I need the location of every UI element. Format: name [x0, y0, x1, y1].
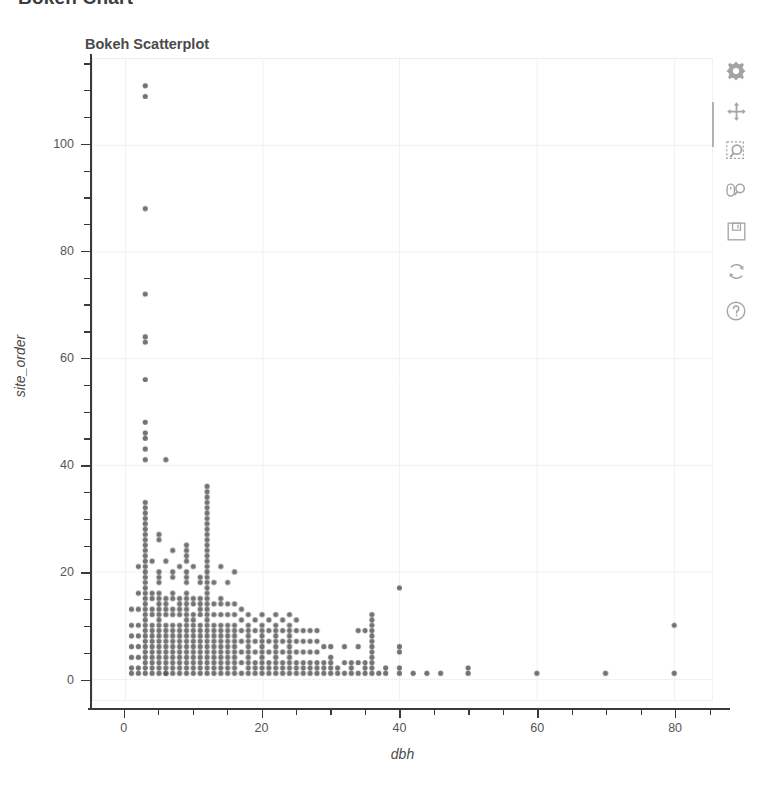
- x-tick: [399, 709, 400, 718]
- y-tick: [84, 492, 90, 493]
- save-icon[interactable]: [721, 216, 751, 246]
- y-tick: [84, 197, 90, 198]
- y-tick: [81, 572, 90, 573]
- y-tick: [81, 251, 90, 252]
- bokeh-logo-icon[interactable]: [721, 56, 751, 86]
- x-tick-label: 20: [255, 721, 269, 735]
- x-tick: [537, 709, 538, 718]
- box-zoom-icon[interactable]: [721, 136, 751, 166]
- x-tick-label: 80: [668, 721, 682, 735]
- y-tick: [84, 278, 90, 279]
- y-tick: [84, 331, 90, 332]
- y-tick: [81, 358, 90, 359]
- y-tick: [84, 626, 90, 627]
- y-tick: [81, 465, 90, 466]
- x-tick: [641, 709, 642, 715]
- x-tick: [606, 709, 607, 715]
- toolbar-active-indicator: [712, 102, 714, 147]
- page-title: Bokeh Chart: [18, 0, 133, 9]
- x-tick: [330, 709, 331, 715]
- y-tick-label: 100: [53, 137, 74, 151]
- y-tick-label: 80: [60, 244, 74, 258]
- x-tick: [124, 709, 125, 718]
- scatter-plot-canvas[interactable]: [93, 59, 712, 700]
- x-tick: [710, 709, 711, 715]
- x-tick: [227, 709, 228, 715]
- x-axis-title: dbh: [92, 746, 713, 762]
- y-tick: [84, 63, 90, 64]
- bokeh-toolbar[interactable]: [716, 56, 756, 336]
- x-tick: [675, 709, 676, 718]
- y-tick: [81, 680, 90, 681]
- y-tick: [84, 117, 90, 118]
- wheel-zoom-icon[interactable]: [721, 176, 751, 206]
- y-tick: [84, 438, 90, 439]
- x-tick: [262, 709, 263, 718]
- y-tick: [84, 653, 90, 654]
- y-tick: [84, 546, 90, 547]
- x-tick: [503, 709, 504, 715]
- y-tick: [84, 412, 90, 413]
- y-axis-line: [90, 54, 92, 710]
- plot-area[interactable]: [92, 58, 713, 701]
- x-tick: [434, 709, 435, 715]
- y-tick-label: 40: [60, 458, 74, 472]
- reset-icon[interactable]: [721, 256, 751, 286]
- x-tick: [193, 709, 194, 715]
- y-tick: [84, 224, 90, 225]
- bokeh-figure: Bokeh Scatterplot 020406080 020406080100…: [0, 18, 765, 778]
- x-tick: [158, 709, 159, 715]
- x-tick: [365, 709, 366, 715]
- y-tick: [84, 519, 90, 520]
- x-tick: [468, 709, 469, 715]
- x-axis-line: [88, 708, 730, 710]
- y-tick: [84, 304, 90, 305]
- x-tick: [572, 709, 573, 715]
- y-axis-title: site_order: [12, 291, 28, 441]
- y-tick-label: 0: [67, 673, 74, 687]
- y-tick: [84, 171, 90, 172]
- help-icon[interactable]: [721, 296, 751, 326]
- y-tick: [84, 385, 90, 386]
- y-tick-label: 20: [60, 565, 74, 579]
- chart-title: Bokeh Scatterplot: [85, 36, 209, 52]
- y-tick: [81, 144, 90, 145]
- y-tick: [84, 599, 90, 600]
- x-tick: [296, 709, 297, 715]
- pan-icon[interactable]: [721, 96, 751, 126]
- y-tick: [84, 90, 90, 91]
- x-tick-label: 0: [120, 721, 127, 735]
- x-tick-label: 60: [530, 721, 544, 735]
- x-tick-label: 40: [392, 721, 406, 735]
- y-tick-label: 60: [60, 351, 74, 365]
